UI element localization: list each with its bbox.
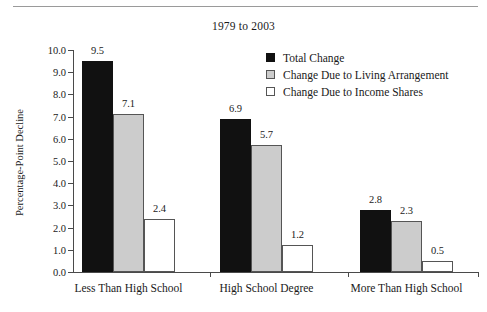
bar-value-label: 9.5	[91, 45, 104, 56]
bar	[391, 221, 422, 272]
y-axis-tick-mark	[68, 205, 73, 206]
y-axis-tick-mark	[68, 250, 73, 251]
y-axis-tick-label: 3.0	[53, 200, 66, 211]
legend-item: Change Due to Living Arrangement	[266, 66, 448, 83]
bar-value-label: 6.9	[229, 103, 242, 114]
bar-value-label: 2.4	[153, 203, 166, 214]
y-axis-tick-label: 9.0	[53, 67, 66, 78]
y-axis-tick-label: 5.0	[53, 156, 66, 167]
legend-swatch-icon	[266, 53, 275, 62]
bar	[251, 145, 282, 272]
bar	[82, 61, 113, 272]
bar	[282, 245, 313, 272]
bar-value-label: 1.2	[291, 229, 304, 240]
y-axis-tick-label: 4.0	[53, 178, 66, 189]
x-axis-tick-mark	[478, 272, 479, 277]
y-axis-tick-label: 8.0	[53, 89, 66, 100]
y-axis-tick-mark	[68, 161, 73, 162]
x-axis-category-label: High School Degree	[220, 282, 314, 294]
bar	[422, 261, 453, 272]
legend-swatch-icon	[266, 87, 275, 96]
y-axis-tick-label: 2.0	[53, 222, 66, 233]
y-axis-tick-label: 1.0	[53, 244, 66, 255]
y-axis-tick-mark	[68, 50, 73, 51]
y-axis-tick-mark	[68, 72, 73, 73]
y-axis-title-text: Percentage-Point Decline	[14, 109, 25, 216]
legend-label: Total Change	[283, 52, 344, 64]
y-axis-spine	[73, 50, 74, 273]
x-axis-spine	[73, 272, 478, 273]
y-axis-tick-label: 7.0	[53, 111, 66, 122]
bar-value-label: 2.8	[369, 194, 382, 205]
chart-title: 1979 to 2003	[0, 20, 487, 32]
y-axis-tick-mark	[68, 228, 73, 229]
y-axis-tick-mark	[68, 94, 73, 95]
y-axis-tick-mark	[68, 183, 73, 184]
bar	[220, 119, 251, 272]
bar-value-label: 0.5	[431, 245, 444, 256]
legend-swatch-icon	[266, 70, 275, 79]
x-axis-category-label: More Than High School	[351, 282, 463, 294]
y-axis-tick-label: 6.0	[53, 133, 66, 144]
legend-label: Change Due to Income Shares	[283, 86, 423, 98]
bar-value-label: 2.3	[400, 205, 413, 216]
bar-value-label: 5.7	[260, 129, 273, 140]
y-axis-tick-label: 0.0	[53, 267, 66, 278]
header-divider	[13, 6, 478, 7]
bar	[144, 219, 175, 272]
y-axis-tick-label: 10.0	[48, 45, 66, 56]
legend-label: Change Due to Living Arrangement	[283, 69, 448, 81]
bar-value-label: 7.1	[122, 98, 135, 109]
y-axis-title: Percentage-Point Decline	[10, 50, 28, 275]
y-axis-tick-mark	[68, 117, 73, 118]
bar	[113, 114, 144, 272]
x-axis-category-label: Less Than High School	[74, 282, 182, 294]
chart-legend: Total ChangeChange Due to Living Arrange…	[266, 49, 448, 100]
y-axis-tick-mark	[68, 139, 73, 140]
x-axis-tick-mark	[348, 272, 349, 277]
y-axis-tick-mark	[68, 272, 73, 273]
bar	[360, 210, 391, 272]
legend-item: Change Due to Income Shares	[266, 83, 448, 100]
legend-item: Total Change	[266, 49, 448, 66]
x-axis-tick-mark	[210, 272, 211, 277]
